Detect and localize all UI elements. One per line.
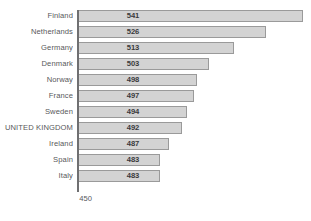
bar-row: Germany513 xyxy=(0,42,311,58)
category-label: Netherlands xyxy=(0,26,73,38)
chart-plot-area: Finland541Netherlands526Germany513Denmar… xyxy=(0,10,311,186)
category-label: Sweden xyxy=(0,106,73,118)
category-label: UNITED KINGDOM xyxy=(0,122,73,134)
bar xyxy=(78,26,266,38)
category-label: France xyxy=(0,90,73,102)
bar-row: Ireland487 xyxy=(0,138,311,154)
category-label: Germany xyxy=(0,42,73,54)
bar-row: Italy483 xyxy=(0,170,311,186)
bar-row: France497 xyxy=(0,90,311,106)
bar xyxy=(78,42,234,54)
bar-row: Finland541 xyxy=(0,10,311,26)
bar-row: Sweden494 xyxy=(0,106,311,122)
bar-row: Norway498 xyxy=(0,74,311,90)
bar-value-label: 526 xyxy=(112,26,154,38)
category-label: Ireland xyxy=(0,138,73,150)
bar-row: Denmark503 xyxy=(0,58,311,74)
bar-row: Netherlands526 xyxy=(0,26,311,42)
bar-row: Spain483 xyxy=(0,154,311,170)
bar-value-label: 498 xyxy=(112,74,154,86)
category-label: Spain xyxy=(0,154,73,166)
bar-row: UNITED KINGDOM492 xyxy=(0,122,311,138)
chart-title xyxy=(0,0,311,8)
category-label: Norway xyxy=(0,74,73,86)
bar-value-label: 513 xyxy=(112,42,154,54)
bar-chart: Finland541Netherlands526Germany513Denmar… xyxy=(0,0,311,221)
bar-value-label: 541 xyxy=(112,10,154,22)
bar-value-label: 487 xyxy=(112,138,154,150)
bar-value-label: 492 xyxy=(112,122,154,134)
bar-value-label: 494 xyxy=(112,106,154,118)
category-label: Finland xyxy=(0,10,73,22)
bar-value-label: 483 xyxy=(112,154,154,166)
category-label: Italy xyxy=(0,170,73,182)
value-axis-line xyxy=(77,10,79,192)
bar-value-label: 503 xyxy=(112,58,154,70)
axis-origin-tick-label: 450 xyxy=(58,193,92,205)
category-label: Denmark xyxy=(0,58,73,70)
bar-value-label: 483 xyxy=(112,170,154,182)
bar-value-label: 497 xyxy=(112,90,154,102)
